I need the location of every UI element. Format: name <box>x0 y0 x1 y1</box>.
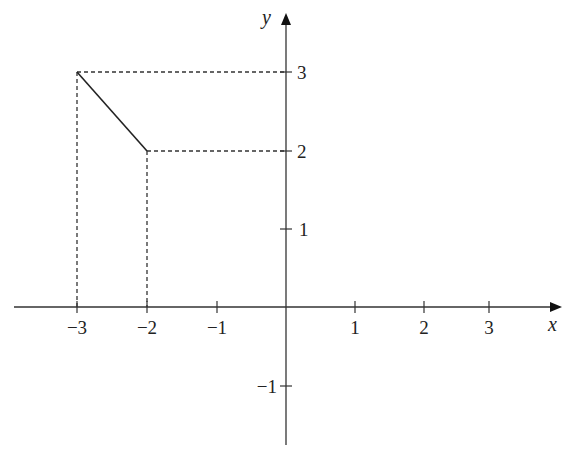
x-tick-label: −2 <box>137 317 157 338</box>
x-tick-label: 2 <box>419 317 429 338</box>
x-tick-label: 1 <box>350 317 360 338</box>
coordinate-plot: −3 −2 −1 1 2 3 3 2 1 −1 x y <box>0 0 574 455</box>
x-tick-label: −1 <box>207 317 227 338</box>
y-tick-label: 3 <box>297 62 307 83</box>
x-tick-label: 3 <box>484 317 494 338</box>
line-segment <box>77 72 147 151</box>
y-tick-label: 2 <box>297 141 307 162</box>
y-tick-label: 1 <box>299 219 309 240</box>
x-axis-label: x <box>547 313 557 335</box>
x-axis-arrow-icon <box>550 302 562 312</box>
y-axis-arrow-icon <box>281 13 291 25</box>
y-tick-label: −1 <box>257 376 277 397</box>
x-tick-label: −3 <box>67 317 87 338</box>
y-axis-label: y <box>260 6 271 29</box>
